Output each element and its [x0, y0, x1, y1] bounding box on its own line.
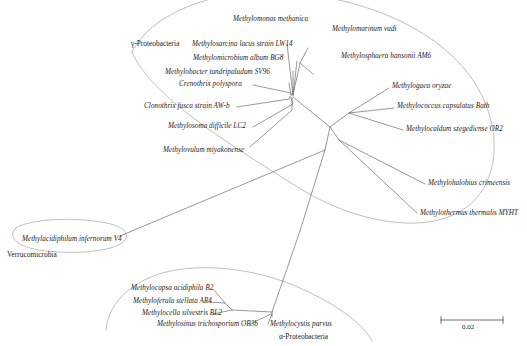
taxon-label-methylobacter-tundripaludum: Methylobacter tundripaludum SV96 — [165, 69, 270, 76]
figure-canvas: Methylomonas methanica Methylomarinum va… — [0, 0, 527, 346]
taxon-label-methylocella-silvestris: Methylocella silvestris BL2 — [142, 310, 222, 317]
taxon-label-methylosphaera-hansonii: Methylosphaera hansonii AM6 — [341, 53, 431, 60]
branch-crenothrix-polyspora — [253, 85, 291, 95]
taxon-label-methylosarcina-lacus: Methylosarcina lacus strain LW14 — [192, 41, 293, 48]
taxon-label-crenothrix-polyspora: Crenothrix polyspora — [179, 81, 242, 88]
backbone-gamma-to-deep — [293, 97, 330, 127]
taxon-label-methylothermus-thermalis: Methylothermus thermalis MYHT — [420, 210, 518, 217]
branch-methylothermus-thermalis — [339, 140, 417, 213]
branch-clonothrix-fusca — [237, 96, 290, 107]
taxon-label-methylovulum-miyakonense: Methylovulum miyakonense — [163, 147, 244, 154]
branch-methylocapsa-acidiphila — [213, 289, 225, 303]
taxon-label-methylomicrobium-album: Methylomicrobium album BG8 — [193, 55, 283, 62]
branch-methylohalobius-crimeensis — [339, 140, 425, 184]
node-thermo-halo — [330, 127, 339, 140]
group-label-gamma-proteobacteria: γ-Proteobacteria — [131, 40, 179, 47]
taxon-label-methylogaea-oryzae: Methylogaea oryzae — [392, 83, 451, 90]
node-right-subclade — [330, 113, 349, 127]
taxon-label-methyloferula-stellata: Methyloferula stellata AR4 — [133, 298, 212, 305]
branch-methylocaldum-szegediense — [349, 113, 403, 130]
taxon-label-methylocystis-parvus: Methylocystis parvus — [270, 321, 332, 328]
branch-alpha-stem — [272, 231, 300, 312]
taxon-label-methylomonas-methanica: Methylomonas methanica — [233, 16, 308, 23]
taxon-label-methylacidiphilum-infernorum: Methylacidiphilum infernorum V4 — [22, 236, 122, 243]
taxon-label-methylomarinum-vadi: Methylomarinum vadi — [332, 26, 397, 33]
scale-bar-label: 0.02 — [462, 323, 474, 331]
taxon-label-methylococcus-capsulatus: Methylococcus capsulatus Bath — [397, 103, 489, 110]
taxon-label-methylocapsa-acidiphila: Methylocapsa acidiphila B2 — [131, 285, 213, 292]
branch-methylovulum-miyakonense — [250, 98, 292, 147]
branch-methylacidiphilum-infernorum — [120, 150, 325, 236]
branch-methylomarinum-vadi — [293, 48, 308, 95]
group-label-verrucomicrobia: Verrucomicrobia — [7, 251, 57, 258]
taxon-label-methylosinus-trichosporium: Methylosinus trichosporium OB3b — [157, 321, 258, 328]
branch-acidophilic-stem — [232, 310, 272, 312]
taxon-label-methylosoma-difficile: Methylosoma difficile LC2 — [168, 123, 246, 130]
phylogenetic-tree-graphic — [0, 0, 527, 346]
backbone-deep-to-lower — [325, 127, 330, 150]
taxon-label-methylohalobius-crimeensis: Methylohalobius crimeensis — [428, 180, 510, 187]
taxon-label-clonothrix-fusca: Clonothrix fusca strain AW-b — [144, 103, 230, 110]
group-label-alpha-proteobacteria: α-Proteobacteria — [279, 333, 328, 340]
branch-methylosphaera-hansonii — [300, 63, 313, 74]
taxon-label-methylocaldum-szegediense: Methylocaldum szegediense OR2 — [406, 126, 503, 133]
